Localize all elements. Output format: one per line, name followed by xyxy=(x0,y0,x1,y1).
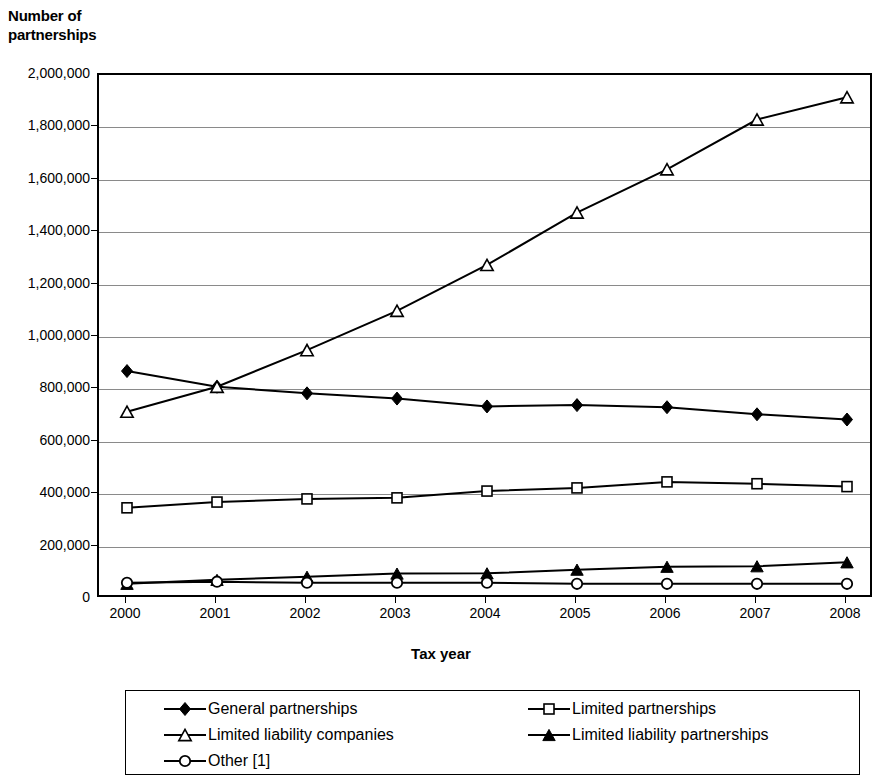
y-axis-tick-label: 1,200,000 xyxy=(0,276,90,290)
series-limited-partnerships xyxy=(122,477,852,513)
x-axis-tick-mark xyxy=(665,596,666,603)
data-point-marker xyxy=(842,413,853,426)
x-axis-tick-labels: 200020012002200320042005200620072008 xyxy=(97,604,872,628)
legend-item-label: General partnerships xyxy=(208,699,357,719)
y-axis-tick-label: 2,000,000 xyxy=(0,66,90,80)
x-axis-tick-mark xyxy=(755,596,756,603)
open-square-icon xyxy=(526,699,572,719)
x-axis-tick-mark xyxy=(575,596,576,603)
open-circle-icon xyxy=(162,751,208,771)
x-axis-title: Tax year xyxy=(0,645,882,662)
x-axis-tick-label: 2008 xyxy=(810,604,880,622)
y-axis-tick-label: 200,000 xyxy=(0,538,90,552)
data-point-marker xyxy=(662,579,672,589)
x-axis-tick-label: 2003 xyxy=(360,604,430,622)
data-point-marker xyxy=(572,483,582,493)
data-point-marker xyxy=(482,578,492,588)
y-axis-tick-label: 1,600,000 xyxy=(0,171,90,185)
data-point-marker xyxy=(662,477,672,487)
x-axis-tick-label: 2007 xyxy=(720,604,790,622)
data-point-marker xyxy=(842,579,852,589)
data-point-marker xyxy=(751,114,763,125)
legend-item-label: Limited liability companies xyxy=(208,725,394,745)
data-point-marker xyxy=(661,164,673,175)
data-point-marker xyxy=(302,387,313,400)
data-point-marker xyxy=(122,503,132,513)
data-point-marker xyxy=(752,579,762,589)
data-point-marker xyxy=(212,497,222,507)
data-point-marker xyxy=(392,392,403,405)
data-point-marker xyxy=(301,345,313,356)
data-point-marker xyxy=(571,207,583,218)
chart-legend: General partnershipsLimited partnerships… xyxy=(125,690,860,775)
y-axis-tick-label: 1,400,000 xyxy=(0,223,90,237)
y-axis-tick-labels: 0200,000400,000600,000800,0001,000,0001,… xyxy=(0,73,90,597)
series-line xyxy=(127,97,847,411)
data-point-marker xyxy=(122,365,133,378)
legend-item-other-1[interactable]: Other [1] xyxy=(162,747,522,774)
data-point-marker xyxy=(212,577,222,587)
x-axis-tick-mark xyxy=(305,596,306,603)
data-point-marker xyxy=(482,486,492,496)
legend-item-label: Limited partnerships xyxy=(572,699,716,719)
data-point-marker xyxy=(752,408,763,421)
x-axis-tick-label: 2004 xyxy=(450,604,520,622)
y-axis-tick-label: 400,000 xyxy=(0,485,90,499)
filled-triangle-icon xyxy=(526,725,572,745)
open-triangle-icon xyxy=(162,725,208,745)
x-axis-tick-label: 2000 xyxy=(90,604,160,622)
data-point-marker xyxy=(482,400,493,413)
data-point-marker xyxy=(752,479,762,489)
data-point-marker xyxy=(662,401,673,414)
y-axis-tick-label: 0 xyxy=(0,590,90,604)
legend-item-general-partnerships[interactable]: General partnerships xyxy=(162,695,522,722)
series-general-partnerships xyxy=(122,365,853,426)
legend-item-limited-liability-partnerships[interactable]: Limited liability partnerships xyxy=(526,721,856,748)
y-axis-tick-label: 800,000 xyxy=(0,380,90,394)
series-limited-liability-companies xyxy=(121,92,853,418)
legend-item-limited-liability-companies[interactable]: Limited liability companies xyxy=(162,721,522,748)
x-axis-tick-label: 2001 xyxy=(180,604,250,622)
y-axis-tick-label: 1,800,000 xyxy=(0,118,90,132)
plot-area xyxy=(97,73,872,597)
y-axis-tick-label: 1,000,000 xyxy=(0,328,90,342)
legend-item-limited-partnerships[interactable]: Limited partnerships xyxy=(526,695,856,722)
data-point-marker xyxy=(572,399,583,412)
legend-item-label: Limited liability partnerships xyxy=(572,725,769,745)
data-point-marker xyxy=(392,493,402,503)
data-point-marker xyxy=(572,579,582,589)
series-lines xyxy=(99,75,874,599)
legend-item-label: Other [1] xyxy=(208,751,270,771)
data-point-marker xyxy=(391,305,403,316)
x-axis-tick-mark xyxy=(485,596,486,603)
y-axis-tick-label: 600,000 xyxy=(0,433,90,447)
x-axis-tick-label: 2002 xyxy=(270,604,340,622)
data-point-marker xyxy=(302,494,312,504)
x-axis-tick-mark xyxy=(125,596,126,603)
y-axis-title: Number of partnerships xyxy=(8,6,96,44)
x-axis-tick-mark xyxy=(395,596,396,603)
data-point-marker xyxy=(481,259,493,270)
data-point-marker xyxy=(392,578,402,588)
data-point-marker xyxy=(121,406,133,417)
x-axis-tick-mark xyxy=(845,596,846,603)
data-point-marker xyxy=(842,482,852,492)
filled-diamond-icon xyxy=(162,699,208,719)
data-point-marker xyxy=(302,578,312,588)
data-point-marker xyxy=(122,578,132,588)
x-axis-tick-label: 2005 xyxy=(540,604,610,622)
x-axis-tick-mark xyxy=(215,596,216,603)
x-axis-tick-label: 2006 xyxy=(630,604,700,622)
data-point-marker xyxy=(841,92,853,103)
